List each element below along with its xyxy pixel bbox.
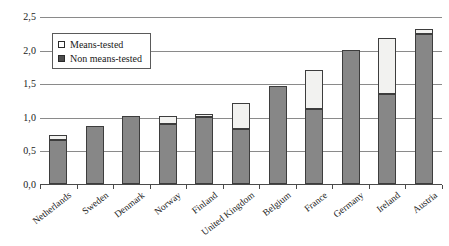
y-tick-label: 2,5 xyxy=(2,12,36,22)
bar-segment-non-means-tested xyxy=(49,140,67,184)
x-axis-label: Finland xyxy=(191,190,220,216)
x-axis-label: France xyxy=(303,190,330,214)
chart-legend: Means-tested Non means-tested xyxy=(52,33,151,69)
x-axis-label: Austria xyxy=(411,190,439,215)
legend-item-means-tested: Means-tested xyxy=(58,37,142,51)
legend-label: Means-tested xyxy=(70,39,123,50)
legend-label: Non means-tested xyxy=(70,53,142,64)
x-axis-label: Belgium xyxy=(261,190,293,218)
x-axis-label: Denmark xyxy=(113,190,147,220)
bar-united-kingdom xyxy=(232,103,250,184)
bar-segment-means-tested xyxy=(378,38,396,93)
dark-square-swatch-icon xyxy=(58,55,65,62)
bar-segment-means-tested xyxy=(159,116,177,124)
bar-segment-non-means-tested xyxy=(415,34,433,184)
y-tick-label: 2,0 xyxy=(2,46,36,56)
bar-segment-non-means-tested xyxy=(232,129,250,184)
bar-chart: 2,5 2,0 1,5 1,0 0,5 0,0 NetherlandsSwede… xyxy=(0,0,449,246)
x-axis-label: Ireland xyxy=(375,190,402,214)
bar-germany xyxy=(342,50,360,184)
bar-segment-non-means-tested xyxy=(122,116,140,184)
bar-segment-non-means-tested xyxy=(378,94,396,184)
bar-sweden xyxy=(86,126,104,184)
bar-austria xyxy=(415,29,433,184)
bar-segment-means-tested xyxy=(305,70,323,109)
bar-denmark xyxy=(122,116,140,184)
y-tick-label: 1,5 xyxy=(2,79,36,89)
bar-segment-means-tested xyxy=(49,135,67,140)
bar-netherlands xyxy=(49,135,67,184)
light-square-swatch-icon xyxy=(58,41,65,48)
bar-segment-non-means-tested xyxy=(86,126,104,184)
bar-segment-means-tested xyxy=(195,114,213,117)
y-tick-label: 0,5 xyxy=(2,146,36,156)
bar-segment-non-means-tested xyxy=(305,109,323,184)
x-axis-label: Norway xyxy=(153,190,183,217)
bar-finland xyxy=(195,114,213,184)
y-axis-labels: 2,5 2,0 1,5 1,0 0,5 0,0 xyxy=(0,17,36,185)
x-axis-label: Sweden xyxy=(80,190,110,216)
bar-france xyxy=(305,70,323,184)
bar-segment-means-tested xyxy=(232,103,250,130)
legend-item-non-means-tested: Non means-tested xyxy=(58,51,142,65)
x-axis-label: Netherlands xyxy=(31,190,73,226)
bar-ireland xyxy=(378,38,396,184)
bar-segment-means-tested xyxy=(415,29,433,34)
bar-belgium xyxy=(269,86,287,184)
bar-segment-non-means-tested xyxy=(159,124,177,184)
bar-segment-non-means-tested xyxy=(342,50,360,184)
y-tick-label: 1,0 xyxy=(2,113,36,123)
bar-segment-non-means-tested xyxy=(195,117,213,184)
bar-norway xyxy=(159,116,177,184)
x-axis-label: Germany xyxy=(332,190,366,220)
x-axis-labels: NetherlandsSwedenDenmarkNorwayFinlandUni… xyxy=(0,188,449,246)
bar-segment-non-means-tested xyxy=(269,86,287,184)
